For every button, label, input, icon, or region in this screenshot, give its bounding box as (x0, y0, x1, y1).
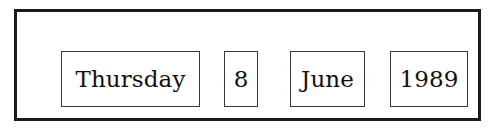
date-field-row: Thursday 8 June 1989 (61, 51, 468, 107)
date-field-month[interactable]: June (290, 51, 365, 107)
date-field-year[interactable]: 1989 (390, 51, 468, 107)
date-display-widget: Thursday 8 June 1989 (0, 0, 496, 140)
date-field-day[interactable]: 8 (224, 51, 258, 107)
outer-frame-border: Thursday 8 June 1989 (14, 9, 481, 121)
date-field-weekday[interactable]: Thursday (61, 51, 200, 107)
